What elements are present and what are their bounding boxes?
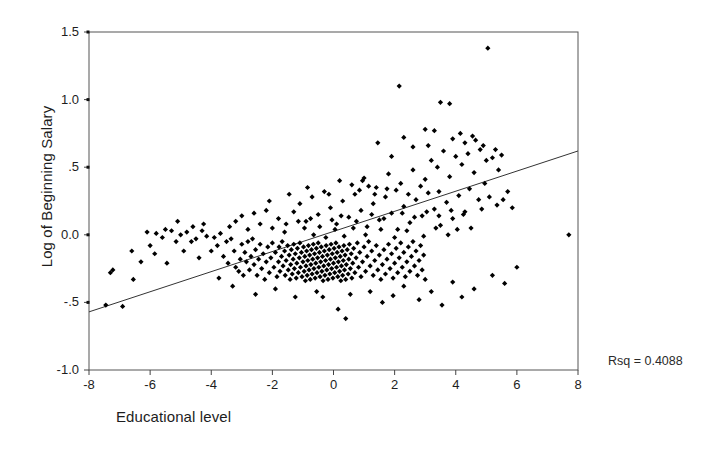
- y-tick-label: -1.0: [35, 362, 79, 377]
- x-tick-label: 6: [502, 377, 532, 392]
- y-tick-dot: [87, 233, 90, 236]
- x-tick-label: 0: [319, 377, 349, 392]
- y-tick-dot: [87, 98, 90, 101]
- x-tick-label: -8: [74, 377, 104, 392]
- x-tick-label: 2: [380, 377, 410, 392]
- x-tick-label: -6: [135, 377, 165, 392]
- x-tick-label: 4: [441, 377, 471, 392]
- x-tick-label: -2: [257, 377, 287, 392]
- y-tick-label: 1.5: [35, 24, 79, 39]
- plot-frame: [89, 32, 578, 370]
- y-axis-title: Log of Beginning Salary: [38, 57, 55, 317]
- y-tick-dot: [87, 166, 90, 169]
- x-axis-title: Educational level: [116, 408, 231, 425]
- plot-svg: [0, 0, 717, 458]
- axis-corner-dot: [87, 31, 90, 34]
- rsq-annotation: Rsq = 0.4088: [608, 354, 683, 368]
- x-tick-label: -4: [196, 377, 226, 392]
- x-tick-label: 8: [563, 377, 593, 392]
- y-tick-dot: [87, 301, 90, 304]
- scatter-chart: -8-6-4-202468-1.0-.50.0.51.01.5 Log of B…: [0, 0, 717, 458]
- x-axis-ticks: [89, 370, 578, 375]
